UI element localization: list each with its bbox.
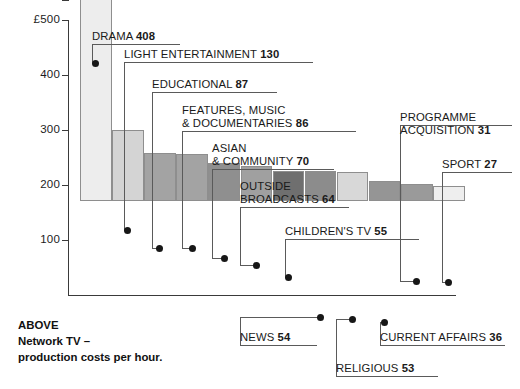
callout-dot-asian	[221, 255, 228, 262]
callout-features-line-1: FEATURES, MUSIC	[182, 104, 309, 117]
figure-caption: ABOVE Network TV – production costs per …	[18, 317, 162, 365]
leader-stem-programme	[400, 125, 401, 281]
callout-educational: EDUCATIONAL 87	[152, 78, 248, 91]
leader-stem-outside	[240, 207, 241, 265]
callout-dot-childrens	[285, 274, 292, 281]
bar-light-ent	[112, 130, 144, 202]
callout-features: FEATURES, MUSIC& DOCUMENTARIES 86	[182, 104, 309, 130]
leader-underline-asian	[212, 169, 334, 170]
callout-asian-line-1: ASIAN	[212, 142, 309, 155]
callout-features-value: 86	[296, 117, 309, 129]
caption-line-3: production costs per hour.	[18, 349, 162, 365]
callout-educational-line-1: EDUCATIONAL 87	[152, 78, 248, 91]
callout-dot-religious	[349, 316, 356, 323]
bar-sport	[433, 186, 465, 201]
callout-news-value: 54	[278, 331, 291, 343]
leader-underline-current	[380, 345, 505, 346]
callout-sport-value: 27	[484, 158, 497, 170]
leader-stem-features	[182, 131, 183, 248]
callout-religious: RELIGIOUS 53	[336, 362, 414, 375]
callout-dot-educational	[156, 245, 163, 252]
callout-programme-value: 31	[478, 124, 491, 136]
callout-dot-outside	[253, 262, 260, 269]
callout-religious-value: 53	[402, 362, 415, 374]
callout-sport-line-1: SPORT 27	[442, 158, 497, 171]
callout-current-line-1: CURRENT AFFAIRS 36	[380, 331, 502, 344]
callout-news-line-1: NEWS 54	[240, 331, 290, 344]
callout-sport: SPORT 27	[442, 158, 497, 171]
leader-underline-features	[182, 131, 356, 132]
callout-drama: DRAMA 408	[92, 30, 155, 43]
chart-figure: £500 400 300 200 100 DRAMA 408 LIGHT ENT…	[0, 0, 520, 389]
callout-outside: OUTSIDEBROADCASTS 64	[240, 180, 335, 206]
callout-religious-line-1: RELIGIOUS 53	[336, 362, 414, 375]
callout-outside-line-1: OUTSIDE	[240, 180, 335, 193]
callout-light-ent-line-1: LIGHT ENTERTAINMENT 130	[124, 48, 279, 61]
callout-dot-features	[189, 245, 196, 252]
callout-programme-line-2: ACQUISITION 31	[400, 124, 491, 137]
caption-line-1: ABOVE	[18, 317, 162, 333]
callout-asian: ASIAN& COMMUNITY 70	[212, 142, 309, 168]
bar-programme	[401, 184, 433, 201]
leader-underline-sport	[442, 172, 512, 173]
leader-stem-educational	[152, 92, 153, 248]
callout-drama-line-1: DRAMA 408	[92, 30, 155, 43]
callout-asian-value: 70	[296, 155, 309, 167]
callout-dot-current	[381, 319, 388, 326]
callout-educational-value: 87	[235, 78, 248, 90]
callout-dot-news	[317, 314, 324, 321]
callout-dot-sport	[445, 279, 452, 286]
leader-stem-light-ent	[124, 62, 125, 230]
callout-outside-value: 64	[322, 193, 335, 205]
leader-stem-sport	[442, 172, 443, 282]
callout-news: NEWS 54	[240, 331, 290, 344]
bar-current	[369, 181, 401, 201]
callout-programme-line-1: PROGRAMME	[400, 111, 491, 124]
leader-underline-childrens	[285, 239, 419, 240]
leader-underline-outside	[240, 207, 349, 208]
leader-arm-news	[240, 317, 320, 318]
leader-stem-asian	[212, 169, 213, 258]
leader-stem-childrens	[285, 239, 286, 277]
callout-drama-value: 408	[136, 30, 155, 42]
callout-dot-programme	[413, 278, 420, 285]
callout-outside-line-2: BROADCASTS 64	[240, 193, 335, 206]
callout-asian-line-2: & COMMUNITY 70	[212, 155, 309, 168]
bar-educational	[144, 153, 176, 201]
callout-dot-light-ent	[124, 227, 131, 234]
leader-underline-news	[240, 345, 317, 346]
leader-underline-educational	[152, 92, 277, 93]
callout-programme: PROGRAMMEACQUISITION 31	[400, 111, 491, 137]
leader-underline-light-ent	[124, 62, 313, 63]
leader-underline-religious	[336, 376, 438, 377]
callout-childrens: CHILDREN'S TV 55	[285, 225, 387, 238]
callout-light-ent-value: 130	[260, 48, 279, 60]
callout-childrens-line-1: CHILDREN'S TV 55	[285, 225, 387, 238]
callout-dot-drama	[92, 60, 99, 67]
callout-current-value: 36	[489, 331, 502, 343]
callout-childrens-value: 55	[374, 225, 387, 237]
bar-religious	[337, 172, 369, 201]
callout-features-line-2: & DOCUMENTARIES 86	[182, 117, 309, 130]
caption-line-2: Network TV –	[18, 333, 162, 349]
leader-underline-drama	[92, 44, 180, 45]
callout-light-ent: LIGHT ENTERTAINMENT 130	[124, 48, 279, 61]
callout-current: CURRENT AFFAIRS 36	[380, 331, 502, 344]
